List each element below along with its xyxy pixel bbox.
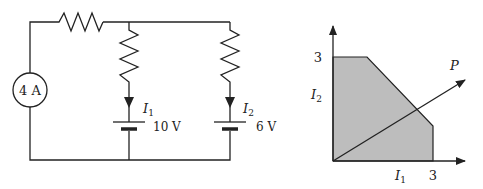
current-label-i2: I2 — [242, 101, 254, 118]
current-label-i1: I1 — [142, 101, 154, 118]
circuit-diagram — [13, 13, 246, 160]
x-axis-tick-3: 3 — [429, 168, 437, 183]
wire-left-top — [30, 22, 55, 73]
current-source-label: 4 A — [19, 83, 41, 98]
figure: 4 A I1 10 V I2 6 V 3 I2 3 I1 P — [0, 0, 483, 189]
x-axis-label: I1 — [394, 168, 406, 185]
wire-left-bottom — [30, 107, 230, 160]
battery2-label: 6 V — [256, 120, 276, 134]
current-arrow-i1-icon — [124, 97, 134, 108]
battery1-label: 10 V — [153, 120, 181, 134]
y-axis-tick-3: 3 — [314, 50, 322, 65]
resistor-top — [55, 13, 103, 31]
y-axis-label: I2 — [310, 87, 322, 104]
current-arrow-i2-icon — [225, 97, 235, 108]
vector-p-label: P — [449, 58, 459, 73]
feasible-region-graph — [333, 26, 465, 161]
